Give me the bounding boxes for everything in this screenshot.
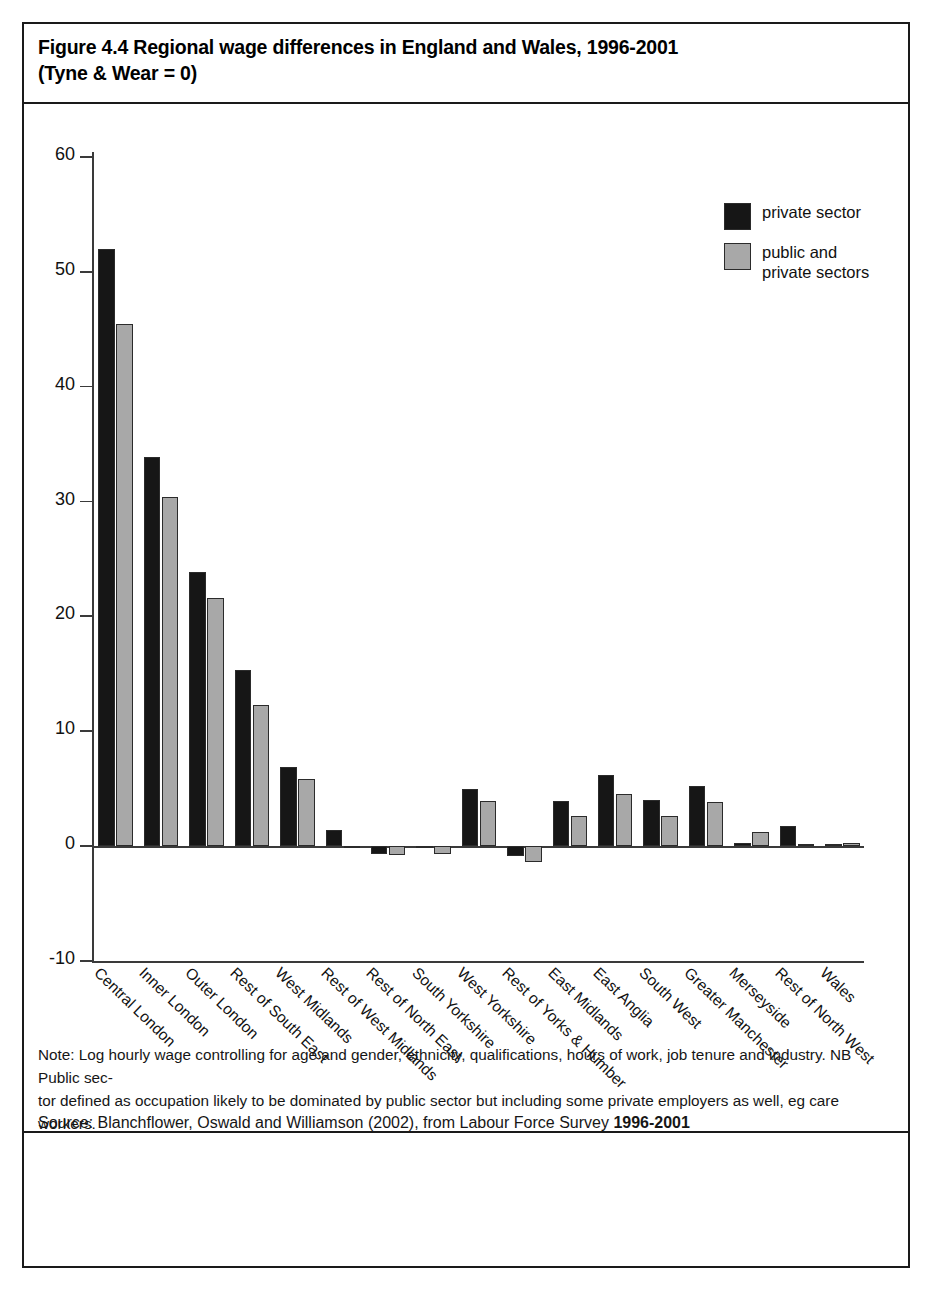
legend-item-private-sector: private sector bbox=[724, 202, 904, 230]
bar bbox=[389, 846, 406, 855]
y-axis-tick-mark bbox=[80, 845, 92, 847]
legend-label-public-line-2: private sectors bbox=[762, 262, 869, 282]
figure-source-dataset: Labour Force Survey bbox=[460, 1114, 614, 1131]
bar bbox=[416, 846, 433, 848]
figure-frame: Figure 4.4 Regional wage differences in … bbox=[22, 22, 910, 1268]
bar bbox=[780, 826, 797, 846]
bar bbox=[734, 843, 751, 846]
bar bbox=[326, 830, 343, 846]
y-axis-tick-mark bbox=[80, 156, 92, 158]
y-axis-tick-label: 30 bbox=[55, 489, 75, 510]
bar bbox=[798, 844, 815, 846]
y-axis-tick-mark bbox=[80, 386, 92, 388]
bar bbox=[207, 598, 224, 846]
bar bbox=[298, 779, 315, 846]
legend-label-private-sector: private sector bbox=[762, 202, 861, 222]
x-axis-category-label: Wales bbox=[817, 964, 860, 1006]
bar bbox=[235, 670, 252, 846]
legend-label-public-line-1: public and bbox=[762, 242, 869, 262]
figure-source: Source: Blanchflower, Oswald and William… bbox=[38, 1112, 896, 1134]
figure-source-prefix: Source: Blanchflower, Oswald and William… bbox=[38, 1114, 460, 1131]
x-axis-category-label: West Yorkshire bbox=[453, 964, 540, 1049]
figure-source-years: 1996-2001 bbox=[613, 1114, 690, 1131]
bar bbox=[661, 816, 678, 846]
bar bbox=[98, 249, 115, 846]
bar bbox=[507, 846, 524, 856]
bar bbox=[643, 800, 660, 846]
bar bbox=[707, 802, 724, 846]
figure-title: Figure 4.4 Regional wage differences in … bbox=[38, 34, 888, 87]
bar bbox=[116, 324, 133, 846]
y-axis-tick-mark bbox=[80, 960, 92, 962]
bar bbox=[253, 705, 270, 846]
bar bbox=[189, 572, 206, 846]
figure-title-line-2: (Tyne & Wear = 0) bbox=[38, 60, 888, 86]
legend-swatch-private-sector-icon bbox=[724, 203, 751, 230]
bar bbox=[825, 844, 842, 846]
legend-label-public-and-private-sectors: public and private sectors bbox=[762, 242, 869, 282]
figure-note-line-1: Note: Log hourly wage controlling for ag… bbox=[38, 1044, 896, 1090]
y-axis-tick-label: 0 bbox=[65, 833, 75, 854]
bar bbox=[752, 832, 769, 846]
y-axis-tick-mark bbox=[80, 271, 92, 273]
bar bbox=[480, 801, 497, 846]
y-axis-tick-label: 10 bbox=[55, 718, 75, 739]
legend-label-private-sector-line-1: private sector bbox=[762, 202, 861, 222]
x-axis-category-label: West Midlands bbox=[272, 964, 357, 1047]
y-axis-tick-label: -10 bbox=[49, 948, 75, 969]
bar bbox=[162, 497, 179, 846]
bar bbox=[371, 846, 388, 854]
plot-area: 6050403020100-10 Central LondonInner Lon… bbox=[24, 102, 908, 1118]
y-axis-tick-mark bbox=[80, 730, 92, 732]
y-axis-tick-mark bbox=[80, 615, 92, 617]
bar bbox=[571, 816, 588, 846]
y-axis-tick-label: 50 bbox=[55, 259, 75, 280]
legend-item-public-and-private-sectors: public and private sectors bbox=[724, 242, 904, 282]
y-axis-tick-label: 40 bbox=[55, 374, 75, 395]
chart-legend: private sector public and private sector… bbox=[724, 202, 904, 294]
bar bbox=[843, 843, 860, 846]
bar bbox=[462, 789, 479, 846]
bar bbox=[280, 767, 297, 846]
bar bbox=[553, 801, 570, 846]
legend-swatch-public-and-private-sectors-icon bbox=[724, 243, 751, 270]
bar bbox=[344, 846, 361, 848]
bar bbox=[525, 846, 542, 862]
y-axis-tick-label: 60 bbox=[55, 144, 75, 165]
bar bbox=[434, 846, 451, 854]
bar bbox=[144, 457, 161, 846]
bar bbox=[689, 786, 706, 846]
bar bbox=[598, 775, 615, 846]
y-axis-tick-label: 20 bbox=[55, 603, 75, 624]
y-axis-tick-mark bbox=[80, 501, 92, 503]
bar bbox=[616, 794, 633, 846]
figure-title-line-1: Figure 4.4 Regional wage differences in … bbox=[38, 34, 888, 60]
